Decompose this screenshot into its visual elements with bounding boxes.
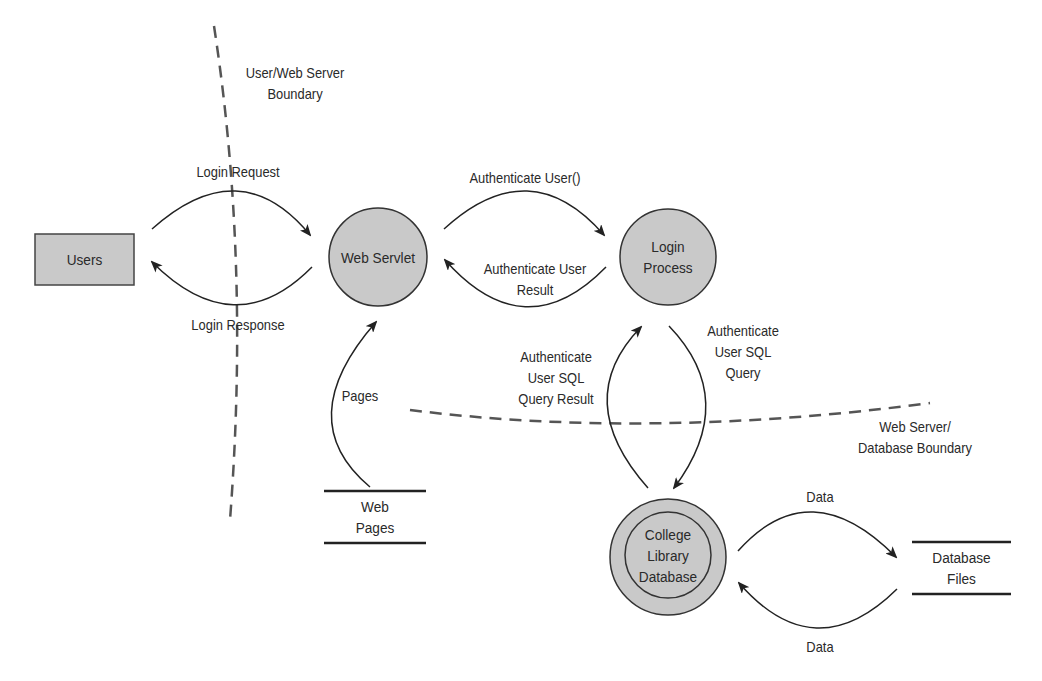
data-to-files-label: Data xyxy=(794,486,846,507)
authenticate-user-result-label: Authenticate User Result xyxy=(466,258,604,300)
login-request-arrow[interactable] xyxy=(152,191,310,235)
data-from-files-arrow[interactable] xyxy=(739,583,897,628)
login-response-arrow[interactable] xyxy=(152,262,312,305)
login-response-label: Login Response xyxy=(178,314,298,335)
authenticate-user-arrow[interactable] xyxy=(444,191,604,235)
user-web-server-boundary-line xyxy=(214,26,237,520)
database-files-store-label: Database Files xyxy=(918,544,1005,592)
web-pages-store-label: Web Pages xyxy=(330,493,420,541)
diagram-canvas xyxy=(0,0,1042,681)
authenticate-user-sql-query-label: Authenticate User SQL Query xyxy=(696,320,791,383)
authenticate-user-sql-query-result-label: Authenticate User SQL Query Result xyxy=(504,346,607,409)
login-request-label: Login Request xyxy=(178,161,298,182)
web-servlet-label: Web Servlet xyxy=(335,208,421,306)
authenticate-user-label: Authenticate User() xyxy=(456,167,594,188)
pages-label: Pages xyxy=(330,385,390,406)
users-entity-label: Users xyxy=(41,234,128,285)
data-to-files-arrow[interactable] xyxy=(738,512,896,557)
authenticate-user-sql-query-result-arrow[interactable] xyxy=(607,327,648,488)
college-library-database-label: College Library Database xyxy=(630,512,706,598)
login-process-label: Login Process xyxy=(626,209,710,305)
web-server-database-boundary-label: Web Server/ Database Boundary xyxy=(846,416,984,458)
user-web-server-boundary-label: User/Web Server Boundary xyxy=(235,62,355,104)
data-from-files-label: Data xyxy=(794,636,846,657)
